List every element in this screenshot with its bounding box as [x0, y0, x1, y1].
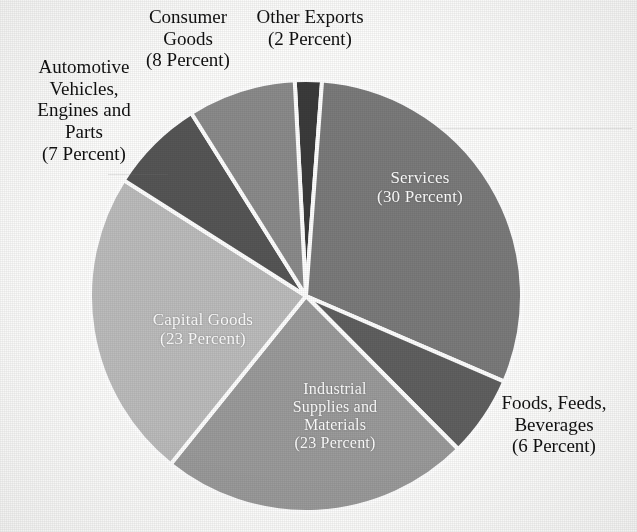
slice-label-capital-goods: Capital Goods (23 Percent) — [118, 310, 288, 348]
label-line: Supplies and — [250, 398, 420, 416]
label-line: Industrial — [250, 380, 420, 398]
slice-label-foods-feeds-beverages: Foods, Feeds, Beverages (6 Percent) — [478, 392, 630, 457]
label-line: Consumer — [132, 6, 244, 28]
slice-label-industrial-supplies: Industrial Supplies and Materials (23 Pe… — [250, 380, 420, 452]
label-line: Materials — [250, 416, 420, 434]
label-line: Parts — [10, 121, 158, 143]
label-line: (23 Percent) — [118, 329, 288, 348]
label-line: (7 Percent) — [10, 143, 158, 165]
label-line: Automotive — [10, 56, 158, 78]
label-line: (6 Percent) — [478, 435, 630, 457]
label-line: (30 Percent) — [356, 187, 484, 206]
label-line: Beverages — [478, 414, 630, 436]
label-line: Vehicles, — [10, 78, 158, 100]
label-line: Engines and — [10, 99, 158, 121]
label-line: Services — [356, 168, 484, 187]
pie-chart-figure: Other Exports (2 Percent)Services (30 Pe… — [0, 0, 637, 532]
label-line: Foods, Feeds, — [478, 392, 630, 414]
label-line: (23 Percent) — [250, 434, 420, 452]
label-line: Capital Goods — [118, 310, 288, 329]
label-line: Other Exports — [234, 6, 386, 28]
label-line: (2 Percent) — [234, 28, 386, 50]
label-line: Goods — [132, 28, 244, 50]
slice-label-automotive-vehicles: Automotive Vehicles, Engines and Parts (… — [10, 56, 158, 164]
slice-label-services: Services (30 Percent) — [356, 168, 484, 206]
slice-label-other-exports: Other Exports (2 Percent) — [234, 6, 386, 49]
